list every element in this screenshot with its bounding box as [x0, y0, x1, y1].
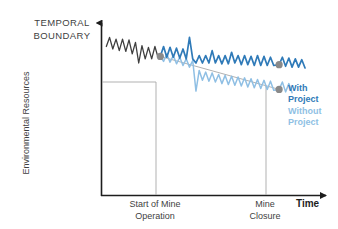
chart-figure: TEMPORAL BOUNDARY Environmental Resource…	[0, 0, 338, 229]
legend-without-project-line2: Project	[288, 117, 319, 127]
series-group	[106, 37, 305, 92]
x-tick-mine-closure-line2: Closure	[249, 211, 280, 221]
x-tick-mine-closure: Mine Closure	[235, 199, 295, 222]
marker-start-of-mine	[157, 53, 164, 60]
x-tick-mine-closure-line1: Mine	[255, 199, 275, 209]
y-axis-label: Environmental Resources	[21, 53, 31, 193]
chart-title: TEMPORAL BOUNDARY	[18, 17, 106, 42]
series-baseline	[106, 37, 160, 63]
chart-title-line1: TEMPORAL	[34, 17, 89, 28]
legend-item-with-project: With Project	[288, 83, 319, 105]
legend-without-project-line1: Without	[288, 106, 321, 116]
guide-lines	[102, 82, 266, 195]
x-tick-start-of-mine-line2: Operation	[135, 211, 175, 221]
x-tick-start-of-mine: Start of Mine Operation	[113, 199, 197, 222]
x-tick-start-of-mine-line1: Start of Mine	[129, 199, 180, 209]
legend-with-project-line2: Project	[288, 94, 319, 104]
marker-closure-with-project	[276, 61, 283, 68]
chart-title-line2: BOUNDARY	[34, 30, 91, 41]
x-axis-label: Time	[296, 198, 319, 209]
legend-with-project-line1: With	[288, 83, 307, 93]
legend-item-without-project: Without Project	[288, 106, 321, 128]
marker-closure-without-project	[276, 86, 283, 93]
